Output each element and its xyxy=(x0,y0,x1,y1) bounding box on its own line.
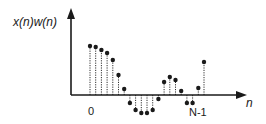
stem-marker xyxy=(94,45,98,49)
stem-marker xyxy=(202,60,206,64)
stem-marker xyxy=(105,51,109,55)
x-axis-label: n xyxy=(246,96,253,110)
stem-marker xyxy=(196,86,200,90)
stem-marker xyxy=(133,108,137,112)
stem-marker xyxy=(88,44,92,48)
tick-label-start: 0 xyxy=(88,105,94,117)
tick-label-end: N-1 xyxy=(189,106,207,118)
stem-marker xyxy=(185,101,189,105)
y-axis-arrow-icon xyxy=(67,8,75,19)
stem-marker xyxy=(162,80,166,84)
stem-marker xyxy=(145,111,149,115)
stem-marker xyxy=(122,87,126,91)
axes xyxy=(67,8,247,99)
stem-marker xyxy=(111,58,115,62)
stem-marker xyxy=(179,89,183,93)
stem-marker xyxy=(151,108,155,112)
stem-marker xyxy=(116,73,120,77)
stems xyxy=(88,44,206,115)
stem-marker xyxy=(190,101,194,105)
stem-marker xyxy=(128,101,132,105)
stem-marker xyxy=(173,78,177,82)
y-axis-label: x(n)w(n) xyxy=(13,15,57,29)
stem-marker xyxy=(168,75,172,79)
stem-marker xyxy=(156,97,160,101)
stem-marker xyxy=(139,111,143,115)
stem-marker xyxy=(99,48,103,52)
